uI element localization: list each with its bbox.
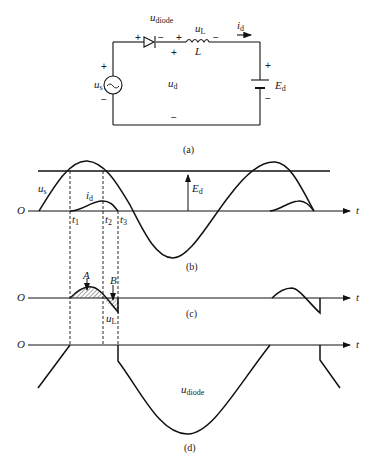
inductor-voltage-label: uL [195,23,205,36]
udiode-waveform-1 [38,345,70,388]
axis-label-d: t [356,339,359,350]
current-label: id [237,20,244,33]
source-minus: − [101,95,107,105]
t1-label: t1 [72,214,79,227]
inductor-icon [186,40,209,43]
source-plus: + [101,62,107,72]
ul-waveform-2 [272,288,320,313]
output-minus: − [171,113,177,123]
origin-d: O [17,339,25,350]
diode-voltage-label: udiode [150,12,173,25]
udiode-label: udiode [181,384,204,397]
axis-label-c: t [356,292,359,303]
battery-plus: + [265,61,271,71]
battery-label: Ed [275,80,286,93]
caption-c: (c) [186,309,197,319]
caption-d: (d) [184,443,196,453]
udiode-waveform-3 [320,345,340,388]
t2-label: t2 [105,214,112,227]
diode-plus: + [135,33,141,43]
ac-source-icon [104,76,122,94]
ed-label: Ed [192,183,203,196]
id-label: id [86,190,93,203]
ul-label: uL [106,313,116,326]
diode-icon [144,37,154,47]
origin-b: O [17,205,25,216]
id-waveform-2 [270,201,314,211]
output-voltage-label: ud [168,78,178,91]
axis-label-b: t [356,205,359,216]
inductor-plus: + [176,33,182,43]
t3-label: t3 [120,214,127,227]
output-plus: + [171,48,177,58]
battery-minus: − [265,94,271,104]
origin-c: O [17,292,25,303]
area-b-label: B [110,275,117,286]
inductor-label: L [195,46,201,57]
source-label: us [94,79,103,92]
caption-a: (a) [183,145,194,155]
diode-minus: − [158,33,164,43]
circuit-diagram [104,35,269,125]
inductor-minus: − [213,33,219,43]
caption-b: (b) [186,262,198,272]
area-a-label: A [83,270,90,281]
us-label: us [38,183,47,196]
id-waveform-1 [70,201,118,211]
